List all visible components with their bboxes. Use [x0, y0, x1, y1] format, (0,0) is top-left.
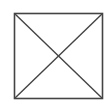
diagram-canvas [0, 0, 107, 105]
